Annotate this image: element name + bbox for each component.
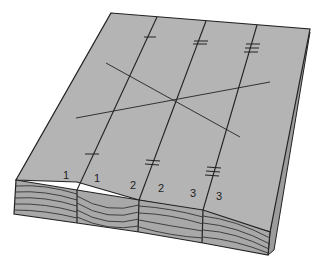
strip-label: 1 bbox=[63, 169, 69, 181]
board-diagram: 1 1 2 2 3 3 bbox=[0, 0, 320, 271]
strip-label: 3 bbox=[190, 187, 196, 199]
strip-label: 1 bbox=[94, 172, 100, 184]
strip-label: 2 bbox=[158, 182, 164, 194]
strip-label: 2 bbox=[130, 179, 136, 191]
strip-label: 3 bbox=[216, 190, 222, 202]
